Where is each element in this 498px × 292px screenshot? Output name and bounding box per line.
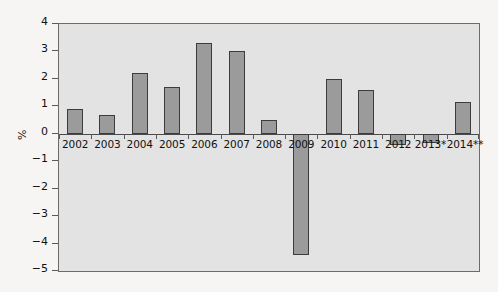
bar bbox=[261, 120, 277, 134]
y-axis-tick-label: 4 bbox=[41, 15, 48, 28]
y-axis-tick-label: 1 bbox=[41, 97, 48, 110]
plot-area: 2002200320042005200620072008200920102011… bbox=[58, 23, 480, 272]
y-axis-tick-label: 0 bbox=[41, 125, 48, 138]
y-axis-tick-label: −2 bbox=[32, 180, 48, 193]
x-axis-category-label: 2009 bbox=[285, 138, 317, 150]
x-axis-category-label: 2007 bbox=[221, 138, 253, 150]
x-axis-category-label: 2011 bbox=[350, 138, 382, 150]
x-axis-category-label: 2013* bbox=[414, 138, 446, 150]
y-axis-tick-label: −5 bbox=[32, 262, 48, 275]
y-axis-tick-label: −1 bbox=[32, 152, 48, 165]
x-axis-category-label: 2008 bbox=[253, 138, 285, 150]
bar bbox=[196, 43, 212, 134]
x-axis-category-label: 2004 bbox=[124, 138, 156, 150]
x-axis-category-label: 2006 bbox=[188, 138, 220, 150]
bar bbox=[358, 90, 374, 134]
x-axis-category-label: 2010 bbox=[317, 138, 349, 150]
y-axis-tick-label: −3 bbox=[32, 207, 48, 220]
x-axis-tick-mark bbox=[478, 134, 479, 139]
x-axis-category-label: 2003 bbox=[91, 138, 123, 150]
x-axis-category-label: 2005 bbox=[156, 138, 188, 150]
bar bbox=[455, 102, 471, 134]
x-axis-category-label: 2014** bbox=[447, 138, 479, 150]
y-axis-ticks: 43210−1−2−3−4−5 bbox=[0, 23, 58, 272]
bar bbox=[132, 73, 148, 133]
zero-baseline bbox=[59, 134, 479, 135]
bar bbox=[164, 87, 180, 134]
x-axis-category-label: 2012 bbox=[382, 138, 414, 150]
y-axis-tick-label: −4 bbox=[32, 235, 48, 248]
x-axis-category-label: 2002 bbox=[59, 138, 91, 150]
bar bbox=[99, 115, 115, 134]
bar bbox=[293, 134, 309, 255]
y-axis-tick-label: 3 bbox=[41, 42, 48, 55]
bar bbox=[326, 79, 342, 134]
bar-chart: % 43210−1−2−3−4−5 2002200320042005200620… bbox=[0, 0, 498, 292]
bar bbox=[67, 109, 83, 134]
bar bbox=[229, 51, 245, 133]
y-axis-tick-label: 2 bbox=[41, 70, 48, 83]
